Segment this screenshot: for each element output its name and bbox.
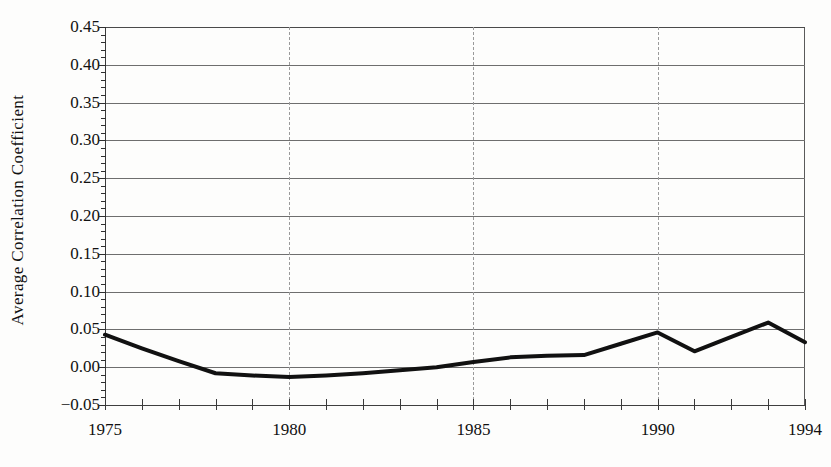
plot-area xyxy=(105,27,805,405)
y-axis-tick-labels: 0.450.400.350.300.250.200.150.100.050.00… xyxy=(30,0,100,467)
y-tick-label: 0.45 xyxy=(34,17,100,37)
y-tick-label: 0.35 xyxy=(34,93,100,113)
x-tick-label: 1990 xyxy=(641,420,675,440)
x-tick-label: 1980 xyxy=(272,420,306,440)
x-tick xyxy=(805,399,806,410)
gridline-y-−0.05 xyxy=(105,405,805,406)
correlation-line xyxy=(105,323,805,377)
x-tick-label: 1985 xyxy=(456,420,490,440)
data-series-line xyxy=(105,27,805,405)
y-tick-label: 0.00 xyxy=(34,357,100,377)
x-tick-label: 1975 xyxy=(88,420,122,440)
y-tick-label: 0.10 xyxy=(34,282,100,302)
y-tick-label: 0.40 xyxy=(34,55,100,75)
y-tick-label: 0.30 xyxy=(34,130,100,150)
y-tick-label: 0.15 xyxy=(34,244,100,264)
chart-figure: Average Correlation Coefficient 0.450.40… xyxy=(0,0,831,467)
x-axis-tick-labels: 19751980198519901994 xyxy=(0,420,831,460)
y-tick-label: −0.05 xyxy=(34,395,100,415)
y-tick-label: 0.05 xyxy=(34,319,100,339)
y-tick-label: 0.25 xyxy=(34,168,100,188)
x-tick-label: 1994 xyxy=(788,420,822,440)
y-axis-title: Average Correlation Coefficient xyxy=(8,95,28,326)
y-tick-label: 0.20 xyxy=(34,206,100,226)
